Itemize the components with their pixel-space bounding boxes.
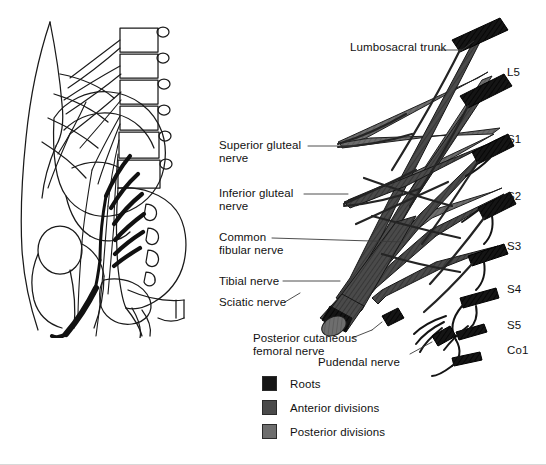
label-superior-gluteal-line2: nerve	[219, 152, 248, 164]
label-lumbosacral-trunk: Lumbosacral trunk	[350, 41, 446, 54]
label-root-S4: S4	[507, 283, 521, 296]
label-inferior-gluteal-nerve: Inferior gluteal nerve	[219, 187, 293, 212]
label-posterior-cutaneous-femoral-nerve: Posterior cutaneous femoral nerve	[253, 332, 357, 357]
label-tibial-nerve: Tibial nerve	[219, 275, 279, 288]
leader-common-fibular	[272, 238, 404, 242]
legend-swatch-roots	[262, 376, 277, 391]
label-inferior-gluteal-line2: nerve	[219, 200, 248, 212]
label-common-fibular-line1: Common	[219, 231, 266, 243]
label-root-L5: L5	[507, 66, 520, 79]
label-superior-gluteal-line1: Superior gluteal	[219, 139, 301, 151]
legend-label-posterior-divisions: Posterior divisions	[290, 426, 385, 439]
leader-sciatic-nerve	[285, 293, 300, 302]
label-root-S5: S5	[507, 319, 521, 332]
lumbosacral-plexus-figure: Lumbosacral trunk Superior gluteal nerve…	[0, 0, 546, 465]
legend-swatch-anterior-divisions	[262, 400, 277, 415]
label-root-S3: S3	[507, 240, 521, 253]
label-root-S2: S2	[507, 190, 521, 203]
leader-pudendal-nerve	[410, 342, 432, 354]
label-common-fibular-nerve: Common fibular nerve	[219, 231, 284, 256]
label-superior-gluteal-nerve: Superior gluteal nerve	[219, 139, 301, 164]
legend-swatch-posterior-divisions	[262, 424, 277, 439]
label-pudendal-nerve: Pudendal nerve	[318, 356, 400, 369]
legend-label-anterior-divisions: Anterior divisions	[290, 402, 379, 415]
label-inferior-gluteal-line1: Inferior gluteal	[219, 187, 293, 199]
label-posterior-cutaneous-line2: femoral nerve	[253, 345, 325, 357]
legend-label-roots: Roots	[290, 378, 321, 391]
label-sciatic-nerve: Sciatic nerve	[219, 296, 286, 309]
label-posterior-cutaneous-line1: Posterior cutaneous	[253, 332, 357, 344]
label-common-fibular-line2: fibular nerve	[219, 244, 284, 256]
label-root-Co1: Co1	[507, 344, 528, 357]
label-root-S1: S1	[507, 133, 521, 146]
